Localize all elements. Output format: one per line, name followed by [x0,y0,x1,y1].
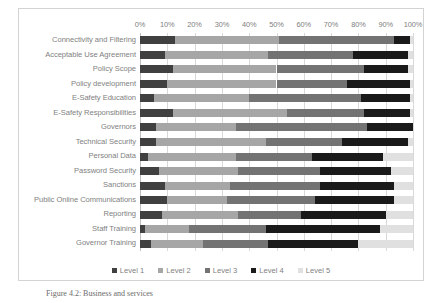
x-tick-label: 30% [207,19,237,30]
bar-segment-level-3 [249,94,361,102]
bar-segment-level-3 [236,123,367,131]
bar-segment-level-4 [315,196,394,204]
legend-item[interactable]: Level 1 [112,266,145,275]
bar-row [140,120,413,135]
bar-segment-level-5 [391,167,413,175]
bar-row [140,77,413,92]
bar-segment-level-4 [367,123,413,131]
bar-segment-level-2 [145,225,189,233]
bar-segment-level-1 [140,211,162,219]
bar-segment-level-3 [238,211,301,219]
bar-segment-level-4 [301,211,386,219]
bar-segment-level-2 [151,240,203,248]
category-label: Staff Training [20,222,136,237]
bar-segment-level-4 [268,240,358,248]
category-label: Personal Data [20,149,136,164]
x-tick-label: 40% [234,19,264,30]
plot-area [140,33,413,251]
bar-segment-level-5 [394,196,413,204]
bar-row [140,222,413,237]
legend-item[interactable]: Level 2 [158,266,191,275]
legend-item[interactable]: Level 4 [251,266,284,275]
bar-row [140,91,413,106]
bar-track [140,211,413,219]
bar-segment-level-3 [203,240,269,248]
bar-row [140,149,413,164]
bar-segment-level-3 [189,225,265,233]
bar-track [140,240,413,248]
bar-row [140,135,413,150]
bar-segment-level-3 [236,153,312,161]
category-label: Governor Training [20,236,136,251]
bar-segment-level-2 [154,94,250,102]
x-tick-label: 50% [262,19,292,30]
legend-item[interactable]: Level 5 [298,266,331,275]
bar-segment-level-3 [238,167,320,175]
legend-swatch-icon [158,268,163,273]
bar-segment-level-2 [165,182,231,190]
bar-segment-level-5 [408,51,413,59]
bar-row [140,178,413,193]
bar-track [140,182,413,190]
bar-track [140,138,413,146]
legend-label: Level 3 [213,266,238,275]
bar-segment-level-4 [342,138,408,146]
bar-segment-level-3 [277,65,364,73]
bar-track [140,225,413,233]
bar-segment-level-5 [386,211,413,219]
bar-track [140,65,413,73]
legend-swatch-icon [298,268,303,273]
bar-segment-level-4 [266,225,381,233]
category-label: E-Safety Responsibilities [20,106,136,121]
category-label: Reporting [20,207,136,222]
bar-row [140,193,413,208]
category-label: Public Online Communications [20,193,136,208]
legend-label: Level 4 [259,266,284,275]
bar-segment-level-1 [140,196,167,204]
bar-segment-level-2 [165,51,269,59]
bar-segment-level-3 [268,51,353,59]
x-tick-label: 20% [180,19,210,30]
legend-item[interactable]: Level 3 [205,266,238,275]
bar-segment-level-2 [159,167,238,175]
gridline [413,33,414,251]
bar-track [140,167,413,175]
legend-label: Level 5 [306,266,331,275]
category-label: Connectivity and Filtering [20,33,136,48]
bar-segment-level-3 [287,109,363,117]
bar-segment-level-1 [140,65,173,73]
bar-row [140,236,413,251]
bar-segment-level-4 [364,109,410,117]
bar-segment-level-4 [364,65,408,73]
bar-segment-level-2 [167,80,276,88]
bar-segment-level-5 [394,182,413,190]
bar-segment-level-3 [227,196,314,204]
bar-row [140,62,413,77]
legend-label: Level 1 [120,266,145,275]
bar-segment-level-4 [320,182,394,190]
legend-swatch-icon [112,268,117,273]
category-label: Policy Scope [20,62,136,77]
chart-legend: Level 1Level 2Level 3Level 4Level 5 [18,262,424,278]
x-tick-label: 0% [125,19,155,30]
bar-track [140,51,413,59]
bar-segment-level-3 [230,182,320,190]
bar-segment-level-1 [140,182,165,190]
bar-segment-level-1 [140,94,154,102]
figure-caption: Figure 4.2: Business and services [46,288,406,299]
bar-track [140,36,413,44]
x-tick-label: 10% [152,19,182,30]
x-axis-tick-labels: 0%10%20%30%40%50%60%70%80%90%100% [122,19,422,32]
bar-segment-level-5 [408,65,413,73]
bar-segment-level-5 [358,240,413,248]
bar-segment-level-5 [380,225,413,233]
category-label: Password Security [20,164,136,179]
bar-segment-level-5 [410,94,413,102]
bar-track [140,123,413,131]
bar-segment-level-2 [173,65,277,73]
x-tick-label: 90% [371,19,401,30]
x-tick-label: 60% [289,19,319,30]
bar-row [140,207,413,222]
bar-segment-level-1 [140,80,167,88]
x-tick-label: 100% [398,19,428,30]
